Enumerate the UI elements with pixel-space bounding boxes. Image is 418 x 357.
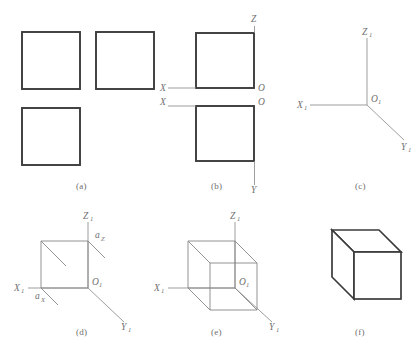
panel-b-label-o-upper: O xyxy=(258,83,265,93)
panel-d-label-ax: a xyxy=(35,291,40,301)
panel-e-label-z1-sub: 1 xyxy=(237,215,240,222)
panel-d-label-y1: Y xyxy=(121,322,128,332)
panel-e-label-x1-sub: 1 xyxy=(161,287,164,294)
panel-d-label-x1-sub: 1 xyxy=(21,287,24,294)
panel-b-caption: (b) xyxy=(211,181,222,191)
panel-b-label-y: Y xyxy=(251,185,258,195)
panel-d-axis-y1 xyxy=(88,288,124,322)
panel-e-label-o1-sub: 1 xyxy=(246,281,249,288)
panel-d-group: Z 1 X 1 O 1 Y 1 a Z a X xyxy=(13,211,131,333)
panel-e-label-y1: Y xyxy=(269,322,276,332)
panel-c-label-z1: Z xyxy=(362,27,368,37)
panel-c-label-y1: Y xyxy=(401,142,408,152)
panel-f-group xyxy=(332,230,401,299)
panel-e-caption: (e) xyxy=(211,327,222,337)
panel-d-label-az: a xyxy=(95,230,100,240)
panel-e-connector-bottom-right xyxy=(235,288,257,310)
panel-e-label-y1-sub: 1 xyxy=(276,326,279,333)
panel-b-group: Z X O X O Y xyxy=(159,14,265,195)
panel-d-label-y1-sub: 1 xyxy=(128,326,131,333)
panel-e-label-o1: O xyxy=(239,277,246,287)
panel-c-axis-y1 xyxy=(367,105,404,140)
panel-c-label-x1: X xyxy=(296,100,304,110)
panel-c-label-z1-sub: 1 xyxy=(369,31,372,38)
panel-e-group: Z 1 X 1 O 1 Y 1 xyxy=(153,211,279,333)
panel-b-label-o-lower: O xyxy=(258,97,265,107)
panel-b-label-x-upper: X xyxy=(159,83,167,93)
panel-d-label-z1-sub: 1 xyxy=(90,215,93,222)
panel-d-label-x1: X xyxy=(13,283,21,293)
top-view-square xyxy=(22,108,80,165)
panel-d-diagonal-construction xyxy=(41,241,66,266)
panel-e-connector-top-left xyxy=(188,241,210,263)
panel-f-caption: (f) xyxy=(355,327,365,337)
panel-d-label-ax-sub: X xyxy=(40,296,46,303)
panel-c-caption: (c) xyxy=(355,181,366,191)
technical-drawing-figure: Z X O X O Y Z 1 X 1 O 1 Y 1 xyxy=(0,0,418,357)
panel-d-label-o1-sub: 1 xyxy=(99,281,102,288)
panel-c-label-o1-sub: 1 xyxy=(378,98,381,105)
front-view-square xyxy=(22,32,80,89)
panel-c-label-x1-sub: 1 xyxy=(304,104,307,111)
panel-d-label-z1: Z xyxy=(83,211,89,221)
panel-b-label-x-lower: X xyxy=(159,97,167,107)
panel-d-label-az-sub: Z xyxy=(101,235,105,242)
panel-b-top-square xyxy=(196,106,254,161)
panel-e-label-z1: Z xyxy=(230,211,236,221)
panel-f-front-face xyxy=(354,252,401,299)
panel-b-label-z: Z xyxy=(251,14,257,24)
panel-d-tick-az xyxy=(88,241,105,258)
panel-e-label-x1: X xyxy=(153,283,161,293)
panel-e-connector-bottom-left xyxy=(188,288,210,310)
panel-d-label-o1: O xyxy=(92,277,99,287)
panel-a-group xyxy=(22,32,154,165)
panel-c-label-y1-sub: 1 xyxy=(408,146,411,153)
side-view-square xyxy=(96,32,154,89)
figure-canvas: Z X O X O Y Z 1 X 1 O 1 Y 1 xyxy=(0,0,418,357)
panel-d-caption: (d) xyxy=(76,327,87,337)
panel-b-front-square xyxy=(196,33,254,88)
panel-c-group: Z 1 X 1 O 1 Y 1 xyxy=(296,27,411,153)
panel-a-caption: (a) xyxy=(76,181,87,191)
panel-e-connector-top-right xyxy=(235,241,257,263)
panel-c-label-o1: O xyxy=(371,94,378,104)
